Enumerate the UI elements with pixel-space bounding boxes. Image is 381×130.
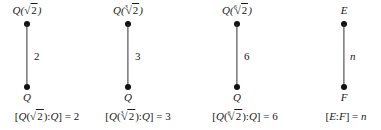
extension-edge <box>343 24 344 87</box>
top-field-label: E <box>341 4 348 16</box>
bottom-node <box>341 84 347 90</box>
degree-caption: [E:F] = n <box>325 110 366 122</box>
degree-label: n <box>350 50 356 62</box>
bottom-field-label: F <box>341 91 348 103</box>
extension-diagram-general: E n F [E:F] = n <box>0 0 381 130</box>
